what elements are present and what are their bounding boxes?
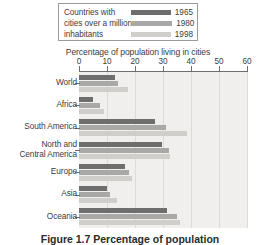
legend-swatch-1998 <box>131 32 171 37</box>
x-axis-tick-label: 30 <box>153 57 173 66</box>
x-axis-tick <box>107 66 108 72</box>
x-axis-tick-label: 10 <box>97 57 117 66</box>
category-label-line: World <box>56 78 77 88</box>
bar-1965 <box>79 164 125 169</box>
bar-1998 <box>79 131 187 136</box>
bar-1980 <box>79 81 118 86</box>
legend-row: Countries with 1965 <box>64 7 193 18</box>
legend-row: inhabitants 1998 <box>64 29 193 40</box>
legend-row: cities over a million 1980 <box>64 18 193 29</box>
x-axis-tick-label: 50 <box>209 57 229 66</box>
bar-1980 <box>79 148 169 153</box>
bar-1965 <box>79 119 155 124</box>
category-label-line: South America <box>24 122 77 132</box>
gridline <box>191 72 192 228</box>
bar-1980 <box>79 103 100 108</box>
bar-1998 <box>79 220 180 225</box>
category-label: Oceania <box>47 212 77 222</box>
x-axis-tick <box>79 66 80 72</box>
x-axis-title-text: Percentage of population living in citie… <box>50 47 210 57</box>
category-label: World <box>56 78 77 88</box>
bar-1998 <box>79 198 117 203</box>
bar-1965 <box>79 97 93 102</box>
legend-year-1965: 1965 <box>175 7 193 18</box>
legend-swatch-1980 <box>132 21 172 26</box>
legend-description-line-2: cities over a million <box>64 18 132 29</box>
category-label-line: Africa <box>56 100 77 110</box>
x-axis-tick <box>163 66 164 72</box>
gridline <box>219 72 220 228</box>
bar-1965 <box>79 142 162 147</box>
legend-year-1980: 1980 <box>176 18 194 29</box>
bar-1998 <box>79 87 128 92</box>
category-label-line: Oceania <box>47 212 77 222</box>
category-label-line: Asia <box>61 189 77 199</box>
category-label: South America <box>24 122 77 132</box>
plot-area <box>79 72 248 228</box>
bar-1998 <box>79 109 104 114</box>
x-axis-tick <box>219 66 220 72</box>
x-axis-title: Percentage of population living in citie… <box>0 47 260 57</box>
chart-figure: Countries with 1965 cities over a millio… <box>0 0 260 245</box>
legend-description-line-1: Countries with <box>64 7 131 18</box>
x-axis-tick <box>247 66 248 72</box>
gridline <box>247 72 248 228</box>
x-axis-tick <box>135 66 136 72</box>
x-axis-tick-label: 0 <box>69 57 89 66</box>
bar-1965 <box>79 75 115 80</box>
x-axis-tick-label: 40 <box>181 57 201 66</box>
bar-1965 <box>79 208 167 213</box>
category-label-line: Europe <box>51 167 77 177</box>
x-axis-tick-label: 20 <box>125 57 145 66</box>
category-label: Africa <box>56 100 77 110</box>
x-axis-tick <box>191 66 192 72</box>
legend-swatch-1965 <box>131 10 171 15</box>
chart-legend: Countries with 1965 cities over a millio… <box>58 3 198 41</box>
category-label: Europe <box>51 167 77 177</box>
legend-description-line-3: inhabitants <box>64 29 131 40</box>
bar-1980 <box>79 125 166 130</box>
category-label: North andCentral America <box>19 140 77 159</box>
bar-1980 <box>79 192 110 197</box>
bar-1980 <box>79 170 129 175</box>
bar-1965 <box>79 186 107 191</box>
x-axis-tick-label: 60 <box>237 57 257 66</box>
bar-1998 <box>79 154 170 159</box>
category-label-line: Central America <box>19 150 77 160</box>
figure-caption: Figure 1.7 Percentage of population <box>0 233 260 245</box>
bar-1980 <box>79 214 177 219</box>
category-label: Asia <box>61 189 77 199</box>
legend-year-1998: 1998 <box>175 29 193 40</box>
bar-1998 <box>79 176 132 181</box>
